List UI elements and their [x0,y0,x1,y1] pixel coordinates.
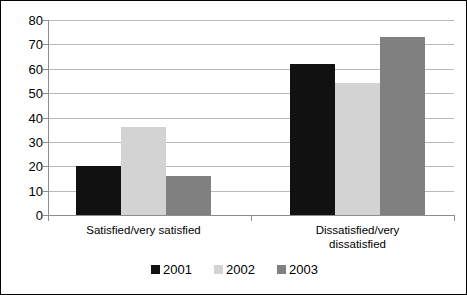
x-axis-tick-mark [48,215,49,221]
bar-2002-group-1 [121,127,166,215]
legend-item-2001[interactable]: 2001 [151,263,192,276]
legend-label: 2002 [226,263,255,276]
y-axis-tick-label: 60 [3,62,43,75]
x-axis-tick-mark [251,215,252,221]
chart-legend: 200120022003 [1,263,467,276]
y-axis-tick-label: 10 [3,184,43,197]
x-axis-tick-mark [454,215,455,221]
y-axis-tick-label: 0 [3,209,43,222]
legend-item-2003[interactable]: 2003 [277,263,318,276]
bar-2003-group-1 [166,176,211,215]
legend-swatch-icon [214,265,223,274]
bar-chart: 01020304050607080 Satisfied/very satisfi… [0,0,467,295]
legend-label: 2001 [163,263,192,276]
y-axis-tick-label: 30 [3,135,43,148]
bar-2001-group-2 [290,64,335,215]
y-axis-tick-label: 40 [3,111,43,124]
x-axis-label-group-2: Dissatisfied/verydissatisfied [268,224,448,251]
legend-label: 2003 [289,263,318,276]
y-axis-tick-label: 70 [3,38,43,51]
plot-area [48,20,454,215]
legend-swatch-icon [151,265,160,274]
gridline [48,20,454,21]
legend-item-2002[interactable]: 2002 [214,263,255,276]
legend-swatch-icon [277,265,286,274]
y-axis-line [48,20,49,216]
bar-2001-group-1 [76,166,121,215]
bar-2003-group-2 [380,37,425,215]
x-axis-label-group-1: Satisfied/very satisfied [54,224,234,238]
y-axis-tick-label: 50 [3,87,43,100]
bar-2002-group-2 [335,83,380,215]
y-axis-tick-label: 80 [3,14,43,27]
y-axis-tick-label: 20 [3,160,43,173]
